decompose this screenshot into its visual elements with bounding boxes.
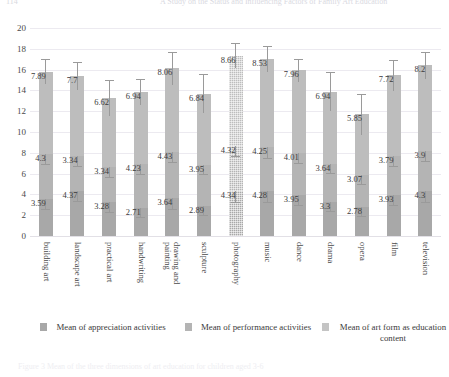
bar-value-label: 7.96 xyxy=(284,70,300,79)
error-bar-cap xyxy=(199,74,208,75)
page-number: 114 xyxy=(6,0,18,6)
bar-value-label: 4.25 xyxy=(252,147,268,156)
legend-label: Mean of appreciation activities xyxy=(52,322,170,333)
x-axis-category: opera xyxy=(355,240,369,310)
error-bar-cap xyxy=(263,202,272,203)
legend-item[interactable]: Mean of art form as education content xyxy=(322,322,449,344)
x-axis-category: practical art xyxy=(102,240,116,310)
error-bar-cap xyxy=(326,173,335,174)
bar-column[interactable]: 3.33.646.94 xyxy=(323,28,337,236)
bar-value-label: 7.89 xyxy=(31,72,47,81)
bar-column[interactable]: 2.893.956.84 xyxy=(197,28,211,236)
error-bar-cap xyxy=(389,166,398,167)
bar-column[interactable]: 2.714.236.94 xyxy=(134,28,148,236)
x-axis-category-label: music xyxy=(263,242,272,262)
bar-value-label: 3.9 xyxy=(415,150,427,159)
error-bar-cap xyxy=(263,158,272,159)
bar-column[interactable]: 3.933.797.72 xyxy=(387,28,401,236)
bar-value-label: 4.28 xyxy=(252,191,268,200)
error-bar-cap xyxy=(168,209,177,210)
error-bar-cap xyxy=(41,59,50,60)
error-bar-cap xyxy=(231,156,240,157)
bar-column[interactable]: 4.284.258.53 xyxy=(260,28,274,236)
error-bar-cap xyxy=(357,94,366,95)
y-axis-tick-label: 2 xyxy=(0,211,26,220)
error-bar-cap xyxy=(231,202,240,203)
bar-value-label: 2.71 xyxy=(126,208,142,217)
bar-column[interactable]: 3.954.017.96 xyxy=(292,28,306,236)
page-header: 114 A Study on the Status and Influencin… xyxy=(0,0,449,11)
bar-value-label: 4.23 xyxy=(126,164,142,173)
error-bar-cap xyxy=(357,216,366,217)
y-axis-tick-label: 8 xyxy=(0,149,26,158)
x-axis-category: music xyxy=(260,240,274,310)
error-bar-cap xyxy=(199,174,208,175)
bar-value-label: 2.78 xyxy=(347,207,363,216)
bar-value-label: 3.28 xyxy=(94,202,110,211)
bar-value-label: 6.62 xyxy=(94,98,110,107)
error-bar-cap xyxy=(73,166,82,167)
bar-column[interactable]: 4.373.347.7 xyxy=(70,28,84,236)
x-axis-category-label: building art xyxy=(41,242,50,281)
x-axis-category-label: landscape art xyxy=(73,242,82,287)
bar-value-label: 8.66 xyxy=(221,56,237,65)
bar-segment[interactable] xyxy=(260,59,274,148)
bar-column[interactable]: 3.594.37.89 xyxy=(39,28,53,236)
legend-label: Mean of art form as education content xyxy=(334,322,449,344)
bar-value-label: 4.43 xyxy=(157,152,173,161)
bar-value-label: 3.07 xyxy=(347,175,363,184)
bar-value-label: 4.3 xyxy=(35,154,47,163)
bar-value-label: 6.94 xyxy=(315,91,331,100)
chart-legend: Mean of appreciation activitiesMean of p… xyxy=(0,322,449,354)
error-bar-cap xyxy=(263,46,272,47)
error-bar-cap xyxy=(231,43,240,44)
x-axis-category: television xyxy=(418,240,432,310)
legend-swatch-icon xyxy=(40,323,47,331)
bar-value-label: 4.37 xyxy=(63,190,79,199)
figure-caption: Figure 3 Mean of the three dimensions of… xyxy=(0,362,449,376)
y-axis-tick-label: 0 xyxy=(0,232,26,241)
error-bar-cap xyxy=(294,163,303,164)
error-bar-cap xyxy=(136,174,145,175)
error-bar-cap xyxy=(168,162,177,163)
bar-segment[interactable] xyxy=(292,70,306,153)
legend-item[interactable]: Mean of performance activities xyxy=(185,322,320,333)
x-axis-category-label: photography xyxy=(231,242,240,285)
x-axis-category-label: drawing and painting xyxy=(163,242,181,304)
bar-value-label: 3.79 xyxy=(379,155,395,164)
bar-value-label: 4.01 xyxy=(284,153,300,162)
bar-value-label: 3.95 xyxy=(284,195,300,204)
y-axis-tick-label: 10 xyxy=(0,128,26,137)
bar-value-label: 3.64 xyxy=(315,164,331,173)
bar-value-label: 3.3 xyxy=(320,201,332,210)
bar-column[interactable]: 4.33.98.2 xyxy=(418,28,432,236)
x-axis-category-label: television xyxy=(421,242,430,275)
stacked-bar-chart: 3.594.37.894.373.347.73.283.346.622.714.… xyxy=(0,14,449,314)
figure-caption-text: Figure 3 Mean of the three dimensions of… xyxy=(18,362,263,371)
y-axis-tick-label: 4 xyxy=(0,190,26,199)
x-axis-category-label: handwriting xyxy=(136,242,145,283)
bar-value-label: 4.32 xyxy=(221,146,237,155)
error-bar-cap xyxy=(389,205,398,206)
plot-area: 3.594.37.894.373.347.73.283.346.622.714.… xyxy=(30,28,441,236)
bar-column[interactable]: 3.283.346.62 xyxy=(102,28,116,236)
bar-column[interactable]: 4.344.328.66 xyxy=(229,28,243,236)
bar-value-label: 8.06 xyxy=(157,68,173,77)
bar-value-label: 7.7 xyxy=(67,75,79,84)
legend-swatch-icon xyxy=(322,323,329,331)
y-axis-tick-label: 6 xyxy=(0,170,26,179)
error-bar-cap xyxy=(421,161,430,162)
bar-segment[interactable] xyxy=(229,56,243,146)
legend-item[interactable]: Mean of appreciation activities xyxy=(40,322,175,333)
error-bar-cap xyxy=(168,52,177,53)
y-axis-tick-label: 12 xyxy=(0,107,26,116)
bar-value-label: 3.59 xyxy=(31,198,47,207)
bar-column[interactable]: 2.783.075.85 xyxy=(355,28,369,236)
bar-value-label: 4.3 xyxy=(415,191,427,200)
bar-value-label: 8.2 xyxy=(415,65,427,74)
y-axis-tick-label: 14 xyxy=(0,86,26,95)
x-axis-category: drawing and painting xyxy=(165,240,179,310)
error-bar-cap xyxy=(136,217,145,218)
bar-column[interactable]: 3.644.438.06 xyxy=(165,28,179,236)
bar-value-label: 3.34 xyxy=(94,167,110,176)
